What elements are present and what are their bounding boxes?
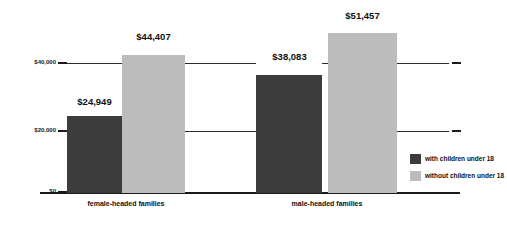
legend-swatch-with-children-icon [410,154,421,164]
legend-label-with-children: with children under 18 [425,155,494,162]
y-axis-tick-mark-40000-left [58,62,67,64]
legend: with children under 18 without children … [410,152,504,186]
gridline-20000-segment-2 [397,131,449,132]
bar-label-female-without-children: $44,407 [111,31,196,42]
legend-swatch-without-children-icon [410,171,421,181]
bar-female-without-children[interactable] [122,55,185,193]
bar-label-male-with-children: $38,083 [247,51,332,62]
bar-chart: $40,000 $20,000 $0 $24,949 $44,407 femal… [0,0,507,225]
legend-item-without-children[interactable]: without children under 18 [410,169,504,182]
y-axis-tick-mark-20000-right [452,130,461,132]
gridline-40000-segment-1 [67,63,122,64]
gridline-20000-segment-1 [185,131,256,132]
y-axis-tick-mark-20000-left [58,130,67,132]
y-axis-tick-label-40000: $40,000 [8,59,56,65]
bar-male-without-children[interactable] [328,33,397,193]
legend-item-with-children[interactable]: with children under 18 [410,152,504,165]
bar-label-male-without-children: $51,457 [320,10,405,21]
gridline-40000-segment-2 [185,63,256,64]
x-axis-category-label-male-headed-families: male-headed families [267,200,387,207]
y-axis-tick-mark-40000-right [452,62,461,64]
x-axis-category-label-female-headed-families: female-headed families [66,200,186,207]
bar-male-with-children[interactable] [256,75,322,193]
y-axis-tick-label-20000: $20,000 [8,127,56,133]
legend-label-without-children: without children under 18 [425,172,504,179]
bar-female-with-children[interactable] [67,116,122,193]
gridline-40000-segment-4 [397,63,449,64]
